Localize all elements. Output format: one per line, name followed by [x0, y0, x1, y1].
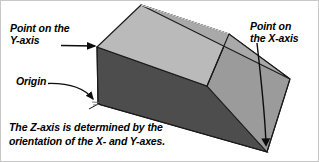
axis-orientation-figure: Point on the Y-axis Origin Point on the … [0, 0, 319, 162]
label-origin: Origin [16, 75, 46, 87]
origin-arrow [48, 83, 93, 99]
label-point-on-y-axis: Point on the Y-axis [10, 22, 69, 47]
label-point-on-x-axis: Point on the X-axis [250, 20, 299, 45]
figure-caption: The Z-axis is determined by the orientat… [9, 121, 165, 148]
